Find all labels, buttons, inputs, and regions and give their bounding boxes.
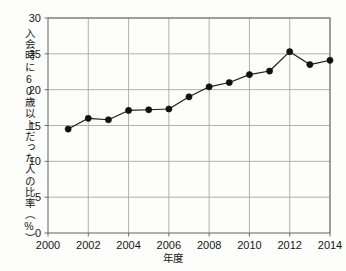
chart-figure: 入会時に60歳以上だった人の比率（%） 051015202530 2000200… <box>0 0 346 271</box>
x-axis-label: 年度 <box>0 250 346 265</box>
x-axis-tick-labels: 20002002200420062008201020122014 <box>0 0 346 271</box>
